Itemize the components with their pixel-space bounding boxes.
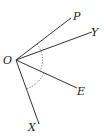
arc-p-to-e: [37, 44, 42, 71]
label-o: O: [3, 54, 12, 67]
rays: [16, 18, 92, 124]
ray-ox: [16, 60, 39, 124]
angle-diagram: O P Y E X: [0, 0, 104, 137]
ray-oe: [16, 60, 77, 88]
labels: O P Y E X: [3, 10, 100, 134]
ray-oy: [16, 32, 92, 60]
ray-op: [16, 18, 71, 60]
label-x: X: [27, 121, 37, 134]
arc-e-to-x: [26, 73, 44, 89]
label-y: Y: [91, 26, 100, 39]
label-e: E: [76, 85, 85, 98]
label-p: P: [72, 10, 81, 23]
